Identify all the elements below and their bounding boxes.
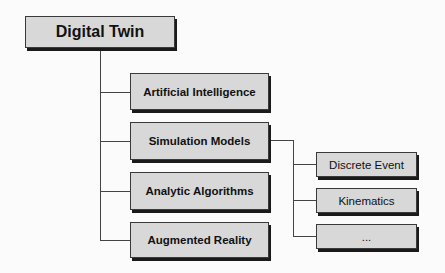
node-digital-twin: Digital Twin: [25, 16, 175, 48]
connector-simulation-models: [100, 141, 130, 142]
node-label: ...: [362, 231, 372, 243]
node-label: Digital Twin: [56, 23, 145, 41]
node-discrete-event: Discrete Event: [316, 152, 417, 177]
connector-analytic-algorithms: [100, 191, 130, 192]
node-kinematics: Kinematics: [316, 188, 417, 213]
node-label: Discrete Event: [329, 159, 404, 171]
main-trunk-connector: [100, 49, 101, 241]
node-label: Kinematics: [338, 195, 394, 207]
node-label: Artificial Intelligence: [143, 86, 255, 98]
node-analytic-algorithms: Analytic Algorithms: [130, 172, 269, 210]
node-label: Simulation Models: [149, 135, 251, 147]
node-label: Augmented Reality: [147, 234, 251, 246]
node-label: Analytic Algorithms: [145, 185, 253, 197]
connector-ellipsis: [293, 236, 316, 237]
node-ellipsis: ...: [316, 224, 417, 249]
connector-simulation-to-subtrunk: [270, 140, 294, 141]
connector-kinematics: [293, 200, 316, 201]
node-artificial-intelligence: Artificial Intelligence: [130, 73, 269, 110]
simulation-sub-trunk-connector: [293, 140, 294, 237]
connector-artificial-intelligence: [100, 92, 130, 93]
connector-discrete-event: [293, 164, 316, 165]
node-augmented-reality: Augmented Reality: [130, 222, 269, 258]
node-simulation-models: Simulation Models: [130, 122, 269, 160]
connector-augmented-reality: [100, 240, 130, 241]
